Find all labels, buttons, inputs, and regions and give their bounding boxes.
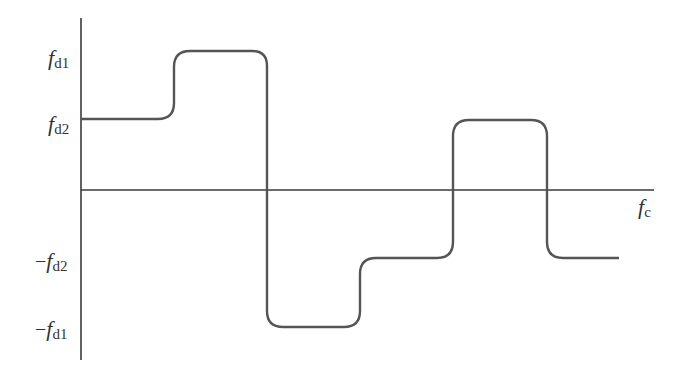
y-label-fd1: fd1: [48, 45, 69, 71]
y-label-fd2: fd2: [48, 111, 69, 137]
x-axis-label-fc: fc: [638, 194, 651, 220]
svg-text:−fd2: −fd2: [35, 248, 67, 274]
svg-text:−fd1: −fd1: [35, 316, 67, 342]
svg-text:fc: fc: [638, 194, 651, 220]
frequency-curve: [81, 51, 619, 327]
frequency-step-diagram: fd1 fd2 −fd2 −fd1 fc: [0, 0, 684, 374]
y-label-neg-fd1: −fd1: [35, 316, 67, 342]
svg-text:fd1: fd1: [48, 45, 69, 71]
svg-text:fd2: fd2: [48, 111, 69, 137]
y-label-neg-fd2: −fd2: [35, 248, 67, 274]
